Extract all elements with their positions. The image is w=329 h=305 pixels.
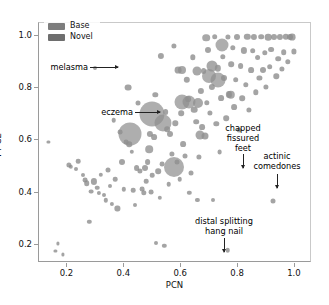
data-point: [238, 63, 244, 69]
y-axis-tick-labels: 0.20.40.60.81.0: [0, 0, 32, 305]
data-point: [111, 118, 116, 123]
data-point: [180, 141, 186, 147]
data-point: [119, 159, 125, 165]
data-point: [223, 116, 229, 122]
data-point: [95, 185, 100, 190]
data-point: [54, 249, 57, 252]
data-point: [141, 190, 146, 195]
data-point: [56, 242, 59, 245]
annotation-eczema-arrow: [135, 112, 160, 113]
x-tick-label: 0.4: [117, 268, 131, 278]
data-point: [76, 159, 81, 164]
data-point: [260, 67, 266, 73]
data-point: [273, 74, 278, 79]
data-point: [192, 67, 201, 76]
data-point: [88, 189, 93, 194]
y-tick-mark: [34, 87, 38, 88]
y-tick-label: 0.8: [18, 82, 32, 92]
data-point: [188, 171, 193, 176]
annotation-actinic-comedones-line2: comedones: [253, 162, 300, 172]
data-point: [216, 38, 229, 51]
data-point: [102, 193, 106, 197]
data-point: [87, 219, 91, 223]
legend-label-base: Base: [70, 21, 89, 32]
data-point: [119, 122, 142, 145]
data-point: [248, 67, 254, 73]
legend: Base Novel: [44, 18, 100, 46]
data-point: [133, 203, 137, 207]
annotation-chapped-fissured-feet-arrow: [243, 154, 244, 168]
data-point: [153, 92, 158, 97]
data-point: [81, 173, 85, 177]
y-tick-mark: [34, 244, 38, 245]
data-point: [193, 98, 203, 108]
data-point: [196, 131, 205, 140]
data-point: [155, 168, 161, 174]
data-point: [230, 45, 235, 50]
data-point: [285, 59, 290, 64]
x-tick-label: 0.6: [173, 268, 187, 278]
data-point: [253, 90, 258, 95]
data-point: [150, 173, 155, 178]
data-point: [258, 34, 264, 40]
data-point: [228, 61, 234, 67]
x-tick-mark: [123, 263, 124, 267]
data-point: [115, 206, 120, 211]
data-point: [167, 131, 173, 137]
data-point: [187, 191, 191, 195]
data-point: [182, 153, 187, 158]
annotation-eczema: eczema: [101, 108, 133, 118]
annotation-melasma-arrow: [90, 67, 118, 68]
data-point: [179, 110, 185, 116]
data-point: [130, 150, 134, 154]
data-point: [164, 157, 184, 177]
data-point: [233, 77, 239, 83]
annotation-distal-splitting-hang-nail-line2: hang nail: [205, 227, 243, 237]
data-point: [142, 165, 148, 171]
data-point: [122, 187, 126, 191]
data-point: [47, 140, 50, 143]
data-point: [91, 178, 97, 184]
x-axis-label: PCN: [38, 280, 311, 290]
y-axis-label: FT-CE: [0, 133, 3, 157]
y-tick-label: 0.6: [18, 134, 32, 144]
legend-item-base: Base: [48, 21, 93, 32]
data-point: [291, 49, 296, 54]
y-tick-mark: [34, 139, 38, 140]
x-tick-label: 0.2: [60, 268, 74, 278]
legend-swatch-novel: [48, 34, 65, 41]
annotation-chapped-fissured-feet-line3: feet: [235, 144, 251, 154]
data-point: [62, 253, 65, 256]
data-point: [125, 84, 132, 91]
data-point: [226, 91, 234, 99]
data-point: [267, 64, 273, 70]
data-point: [212, 34, 218, 40]
data-point: [178, 66, 186, 74]
data-points-layer: [39, 23, 310, 261]
data-point: [113, 177, 118, 182]
data-point: [145, 159, 151, 165]
data-point: [69, 165, 73, 169]
x-tick-label: 1.0: [287, 268, 301, 278]
data-point: [264, 84, 269, 89]
data-point: [207, 61, 218, 72]
data-point: [108, 184, 112, 188]
data-point: [183, 76, 189, 82]
data-point: [154, 241, 158, 245]
y-tick-mark: [34, 192, 38, 193]
x-tick-label: 0.8: [230, 268, 244, 278]
data-point: [157, 195, 161, 199]
data-point: [190, 54, 195, 59]
data-point: [205, 47, 211, 53]
data-point: [275, 56, 281, 62]
data-point: [171, 43, 176, 48]
data-point: [234, 34, 240, 40]
data-point: [218, 95, 224, 101]
data-point: [251, 33, 257, 39]
x-tick-mark: [66, 263, 67, 267]
data-point: [199, 124, 205, 130]
x-tick-mark: [237, 263, 238, 267]
legend-item-novel: Novel: [48, 32, 93, 43]
data-point: [144, 179, 149, 184]
data-point: [103, 198, 107, 202]
